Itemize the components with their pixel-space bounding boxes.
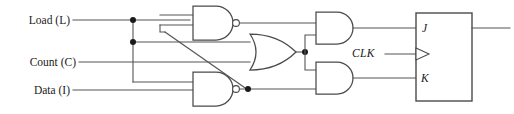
nand-top-inversion-bubble [233, 20, 240, 27]
and-bottom-body [316, 62, 353, 94]
clock-label: CLK [352, 48, 375, 60]
or-gate-body [250, 34, 296, 70]
junction-dot-nand-bottom-output [245, 86, 251, 92]
input-label-count: Count (C) [4, 57, 76, 69]
and-top-body [316, 12, 353, 44]
wire-feedback-step [160, 25, 165, 32]
nand-bottom-inversion-bubble [233, 86, 240, 93]
junction-dot-load-mid [130, 39, 136, 45]
flipflop-pin-label-j: J [422, 23, 427, 35]
nand-bottom-body [193, 72, 233, 106]
and-bottom-gate [316, 62, 353, 94]
wire-or-to-and-top [305, 35, 316, 52]
or-gate [250, 34, 296, 70]
input-label-data: Data (I) [4, 85, 70, 97]
nand-bottom-gate [193, 72, 239, 106]
nand-top-gate [193, 6, 239, 40]
junction-dot-load-top [130, 17, 136, 23]
and-top-gate [316, 12, 353, 44]
circuit-diagram-canvas: Load (L) Count (C) Data (I) CLK J K [0, 0, 514, 114]
input-label-load: Load (L) [4, 15, 70, 27]
circuit-schematic [0, 0, 514, 114]
wire-or-to-and-bottom [305, 52, 316, 70]
flipflop-pin-label-k: K [421, 73, 429, 85]
nand-top-body [193, 6, 233, 40]
